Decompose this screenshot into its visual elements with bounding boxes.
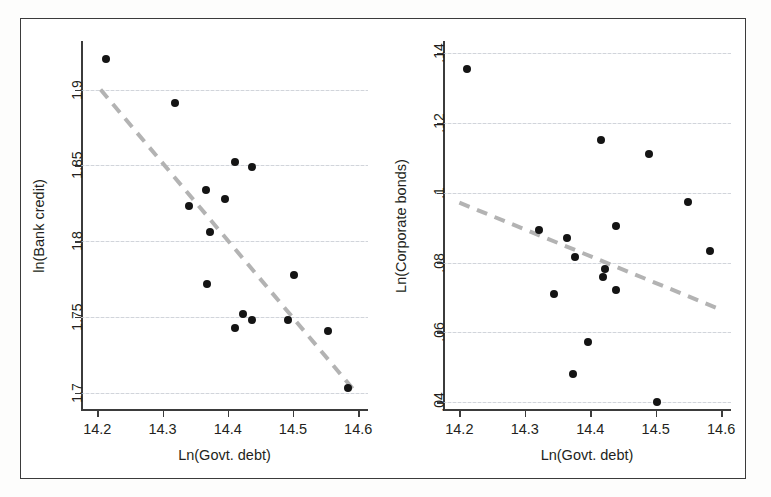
x-tick-mark — [656, 411, 657, 417]
x-tick-mark — [721, 411, 722, 417]
scatter-point — [463, 65, 471, 73]
x-axis-title-right: Ln(Govt. debt) — [541, 447, 634, 463]
scatter-point — [284, 316, 292, 324]
scatter-point — [203, 280, 211, 288]
scatter-point — [290, 271, 298, 279]
y-axis-title-left: ln(Bank credit) — [31, 179, 47, 272]
x-tick-label: 14.2 — [445, 421, 473, 437]
x-tick-mark — [293, 411, 294, 417]
y-tick-label: .08 — [431, 253, 447, 272]
y-tick-label: 1.75 — [69, 303, 85, 330]
scatter-point — [571, 253, 579, 261]
scatter-point — [612, 286, 620, 294]
scatter-point — [535, 226, 543, 234]
scatter-point — [231, 324, 239, 332]
fit-line-left — [81, 41, 368, 411]
figure-frame: 1.71.751.81.851.9 14.214.314.414.514.6 l… — [20, 18, 746, 479]
x-tick-mark — [228, 411, 229, 417]
scatter-point — [563, 234, 571, 242]
fit-line-right — [443, 41, 731, 411]
x-tick-label: 14.2 — [83, 421, 111, 437]
x-tick-label: 14.6 — [707, 421, 735, 437]
x-tick-label: 14.4 — [576, 421, 604, 437]
y-tick-label: 1.8 — [69, 231, 85, 250]
y-tick-label: .14 — [431, 43, 447, 62]
plot-area-left — [81, 41, 368, 411]
x-tick-mark — [97, 411, 98, 417]
x-tick-label: 14.6 — [344, 421, 372, 437]
scatter-point — [550, 290, 558, 298]
scatter-point — [706, 247, 714, 255]
scatter-point — [221, 195, 229, 203]
y-tick-label: 1.9 — [69, 80, 85, 99]
x-tick-label: 14.5 — [642, 421, 670, 437]
scatter-point — [684, 198, 692, 206]
scatter-point — [569, 370, 577, 378]
x-tick-label: 14.3 — [511, 421, 539, 437]
x-tick-mark — [163, 411, 164, 417]
x-axis-title-left: Ln(Govt. debt) — [178, 447, 271, 463]
scatter-point — [645, 150, 653, 158]
scatter-point — [248, 163, 256, 171]
scatter-point — [599, 273, 607, 281]
y-axis-title-right: Ln(Corporate bonds) — [393, 159, 409, 293]
fit-line-segment — [101, 90, 357, 393]
x-tick-mark — [459, 411, 460, 417]
scatter-point — [612, 222, 620, 230]
x-tick-mark — [525, 411, 526, 417]
y-tick-label: .1 — [431, 187, 447, 199]
x-tick-mark — [590, 411, 591, 417]
y-tick-label: 1.85 — [69, 152, 85, 179]
scatter-point — [102, 55, 110, 63]
plot-area-right — [443, 41, 731, 411]
fit-line-segment — [459, 203, 721, 310]
scatter-point — [653, 398, 661, 406]
scatter-point — [185, 202, 193, 210]
y-tick-label: .12 — [431, 113, 447, 132]
scatter-point — [171, 99, 179, 107]
scatter-point — [202, 186, 210, 194]
scatter-point — [324, 327, 332, 335]
scatter-point — [231, 158, 239, 166]
x-tick-label: 14.3 — [148, 421, 176, 437]
x-tick-label: 14.5 — [279, 421, 307, 437]
scatter-point — [597, 136, 605, 144]
figure-canvas: 1.71.751.81.851.9 14.214.314.414.514.6 l… — [0, 0, 771, 497]
y-tick-label: .04 — [431, 393, 447, 412]
x-tick-label: 14.4 — [214, 421, 242, 437]
scatter-point — [206, 228, 214, 236]
scatter-point — [248, 316, 256, 324]
x-tick-mark — [358, 411, 359, 417]
y-tick-label: .06 — [431, 323, 447, 342]
scatter-point — [584, 338, 592, 346]
panel-bank-credit: 1.71.751.81.851.9 14.214.314.414.514.6 l… — [21, 19, 384, 480]
scatter-point — [239, 310, 247, 318]
panel-corporate-bonds: .04.06.08.1.12.14 14.214.314.414.514.6 L… — [384, 19, 747, 480]
y-tick-label: 1.7 — [69, 383, 85, 402]
scatter-point — [344, 384, 352, 392]
